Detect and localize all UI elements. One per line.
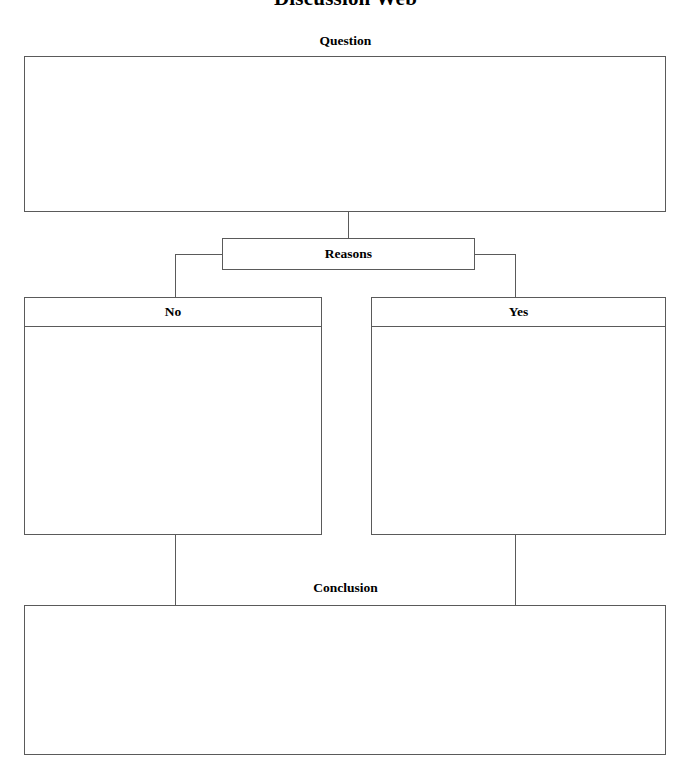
yes-box[interactable]: Yes bbox=[371, 297, 666, 535]
question-box[interactable] bbox=[24, 56, 666, 212]
connector-reasons-left-horizontal bbox=[175, 254, 222, 255]
reasons-caption: Reasons bbox=[223, 239, 474, 269]
no-text[interactable] bbox=[25, 327, 321, 534]
connector-question-to-reasons bbox=[348, 212, 349, 238]
reasons-box[interactable]: Reasons bbox=[222, 238, 475, 270]
no-caption: No bbox=[25, 298, 321, 327]
question-caption: Question bbox=[0, 33, 691, 49]
connector-reasons-right-horizontal bbox=[475, 254, 516, 255]
discussion-web-organizer: Discussion Web Question Reasons No Yes C… bbox=[0, 0, 691, 775]
page-title: Discussion Web bbox=[0, 0, 691, 10]
conclusion-caption: Conclusion bbox=[0, 580, 691, 596]
question-text[interactable] bbox=[25, 57, 665, 211]
yes-text[interactable] bbox=[372, 327, 665, 534]
conclusion-text[interactable] bbox=[25, 606, 665, 754]
no-box[interactable]: No bbox=[24, 297, 322, 535]
connector-reasons-right-vertical bbox=[515, 254, 516, 297]
conclusion-box[interactable] bbox=[24, 605, 666, 755]
connector-reasons-left-vertical bbox=[175, 254, 176, 297]
yes-caption: Yes bbox=[372, 298, 665, 327]
